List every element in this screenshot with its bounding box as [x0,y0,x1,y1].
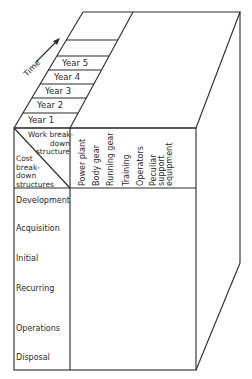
year-2-label: Year 2 [37,100,63,110]
row-disposal: Disposal [16,353,50,362]
year-1-label: Year 1 [28,115,54,125]
column-body-gear: Body gear [92,145,101,186]
year-4-label: Year 4 [54,72,80,82]
column-running-gear: Running gear [106,132,115,186]
year-3-label: Year 3 [45,86,71,96]
column-training: Training [122,154,131,186]
row-acquisition: Acquisition [16,224,60,233]
col6-line-3: equipment [166,143,174,186]
column-power-plant: Power plant [78,139,87,186]
cube-diagram-lines [0,0,252,379]
row-operations: Operations [16,324,60,333]
row-development: Development [16,196,70,205]
wbs-header: Work break- down structure [28,131,70,157]
cbs-header: Cost break- down structures [16,155,54,189]
column-peculiar-support-equipment: Peculiar support equipment [150,143,174,186]
column-operators: Operators [136,146,145,186]
row-initial: Initial [16,254,38,263]
year-5-label: Year 5 [62,58,88,68]
cbs-line-4: structures [16,181,54,190]
row-recurring: Recurring [16,284,54,293]
